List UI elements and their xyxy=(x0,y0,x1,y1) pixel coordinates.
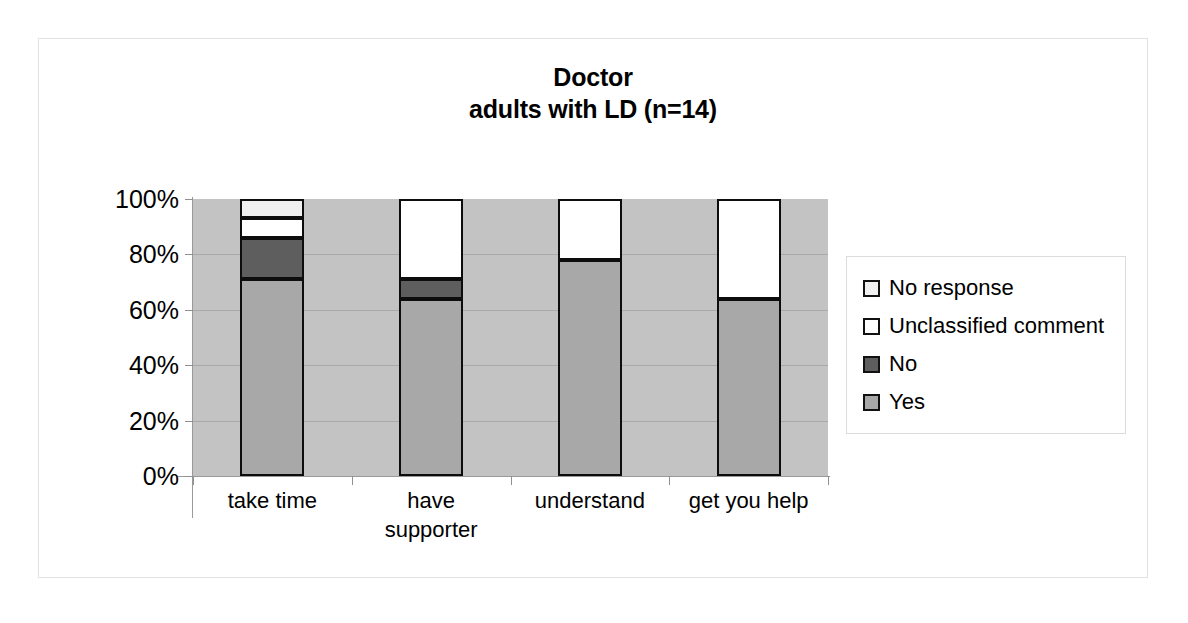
bar-segment[interactable] xyxy=(717,299,781,476)
y-tick-label: 80% xyxy=(83,240,179,269)
x-tick-mark xyxy=(511,476,512,485)
x-tick-label: understand xyxy=(511,486,670,515)
legend-label: No response xyxy=(889,275,1014,301)
bar-segment[interactable] xyxy=(240,218,304,237)
legend-swatch-icon xyxy=(863,356,880,373)
chart-title-subtitle: adults with LD (n=14) xyxy=(39,93,1147,125)
y-tick-label: 60% xyxy=(83,295,179,324)
legend-label: Yes xyxy=(889,389,925,415)
bar-segment[interactable] xyxy=(240,238,304,280)
chart-legend: No responseUnclassified commentNoYes xyxy=(846,256,1126,434)
bar-segment[interactable] xyxy=(558,260,622,476)
legend-item[interactable]: Yes xyxy=(863,383,1111,421)
bar-segment[interactable] xyxy=(240,199,304,218)
bar-segment[interactable] xyxy=(240,279,304,476)
y-tick-label: 100% xyxy=(83,185,179,214)
legend-swatch-icon xyxy=(863,394,880,411)
bar-stack[interactable] xyxy=(558,199,622,476)
x-axis-labels: take timehave supporterunderstandget you… xyxy=(193,486,828,556)
y-tick-mark xyxy=(185,421,193,422)
legend-label: Unclassified comment xyxy=(889,313,1104,339)
x-tick-label: have supporter xyxy=(352,486,511,545)
bar-segment[interactable] xyxy=(399,199,463,279)
x-tick-label: get you help xyxy=(669,486,828,515)
bar-segment[interactable] xyxy=(558,199,622,260)
x-tick-mark xyxy=(669,476,670,485)
legend-item[interactable]: Unclassified comment xyxy=(863,307,1111,345)
y-tick-mark xyxy=(185,310,193,311)
bar-stack[interactable] xyxy=(240,199,304,476)
y-tick-label: 20% xyxy=(83,406,179,435)
x-tick-label: take time xyxy=(193,486,352,515)
bar-segment[interactable] xyxy=(399,299,463,476)
chart-title-line-1: Doctor xyxy=(39,61,1147,93)
y-tick-mark xyxy=(185,199,193,200)
bar-stack[interactable] xyxy=(399,199,463,476)
y-tick-label: 40% xyxy=(83,351,179,380)
chart-frame: Doctor adults with LD (n=14) 100%80%60%4… xyxy=(38,38,1148,578)
legend-item[interactable]: No response xyxy=(863,269,1111,307)
x-tick-mark xyxy=(352,476,353,485)
bar-stack[interactable] xyxy=(717,199,781,476)
plot-area xyxy=(193,199,828,476)
y-tick-mark xyxy=(185,476,193,477)
x-tick-mark xyxy=(193,476,194,485)
legend-item[interactable]: No xyxy=(863,345,1111,383)
x-tick-mark xyxy=(828,476,829,485)
chart-title: Doctor adults with LD (n=14) xyxy=(39,61,1147,125)
legend-label: No xyxy=(889,351,917,377)
y-tick-label: 0% xyxy=(83,462,179,491)
y-tick-mark xyxy=(185,254,193,255)
legend-swatch-icon xyxy=(863,318,880,335)
y-tick-mark xyxy=(185,365,193,366)
y-axis-labels: 100%80%60%40%20%0% xyxy=(83,199,179,476)
bar-segment[interactable] xyxy=(399,279,463,298)
x-axis-line xyxy=(178,476,830,477)
legend-swatch-icon xyxy=(863,280,880,297)
bar-segment[interactable] xyxy=(717,199,781,299)
